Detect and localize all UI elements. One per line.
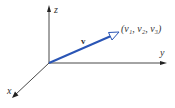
y-axis <box>49 61 167 65</box>
z-axis <box>47 5 51 63</box>
axes-and-vector <box>0 0 175 108</box>
vector-label: v <box>81 36 86 46</box>
x-axis <box>12 63 49 98</box>
vector-endpoint-label: (v₁, v₂, v₃) <box>121 24 161 34</box>
vector-diagram: z y x v (v₁, v₂, v₃) <box>0 0 175 108</box>
z-axis-label: z <box>54 5 58 15</box>
x-axis-label: x <box>7 86 11 96</box>
y-axis-label: y <box>160 48 164 58</box>
